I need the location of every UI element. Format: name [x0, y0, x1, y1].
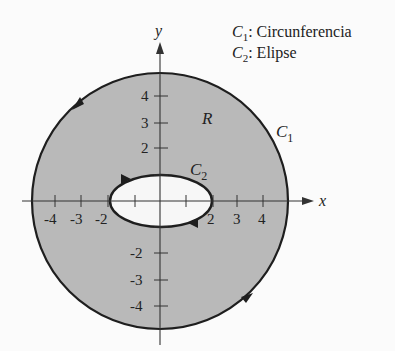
y-axis-label: y [153, 22, 163, 40]
x-tick-label: -3 [70, 211, 83, 227]
y-tick-label: 4 [141, 88, 149, 104]
x-tick-label: 3 [233, 211, 241, 227]
legend-item-c1: C1: Circunferencia [232, 23, 352, 43]
x-tick-label: -4 [44, 211, 57, 227]
y-tick-label: -3 [130, 272, 143, 288]
c1-label: C1 [276, 122, 293, 145]
y-tick-label: 2 [141, 140, 149, 156]
x-tick-label: -2 [95, 211, 108, 227]
y-tick-label: 3 [141, 115, 149, 131]
x-tick-label: 4 [258, 211, 266, 227]
region-label: R [201, 109, 213, 128]
x-tick-label: 2 [207, 211, 215, 227]
y-tick-label: -4 [130, 298, 143, 314]
legend-item-c2: C2: Elipse [232, 44, 297, 64]
legend: C1: Circunferencia C2: Elipse [232, 23, 352, 64]
diagram: -4 -3 -2 2 3 4 4 3 2 -2 -3 -4 x y R C1 C… [0, 0, 395, 351]
y-tick-label: -2 [130, 245, 143, 261]
y-axis-arrow-icon [156, 42, 164, 54]
x-axis-arrow-icon [302, 197, 314, 205]
x-axis-label: x [318, 192, 326, 209]
